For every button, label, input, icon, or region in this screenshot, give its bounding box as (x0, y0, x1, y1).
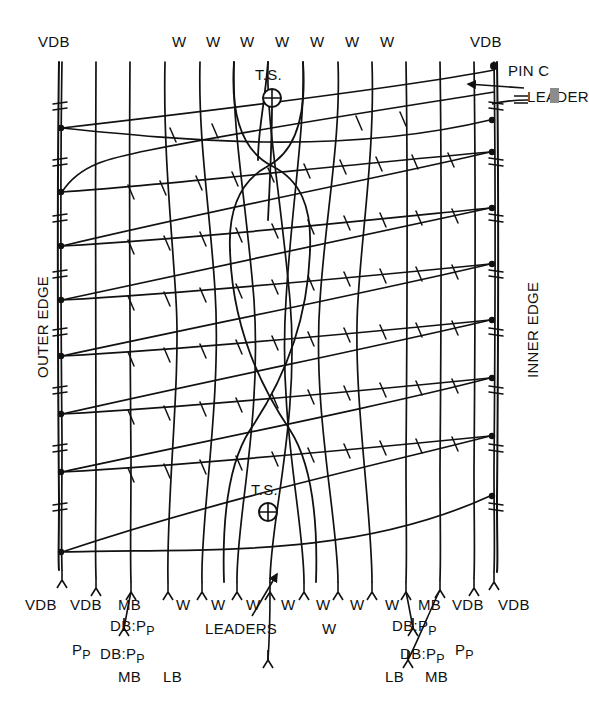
top-thread-label-w: W (310, 33, 324, 50)
bottom-thread-label-w: W (350, 596, 364, 613)
bottom-braid-label: LB (163, 668, 182, 685)
bottom-stitch-label: PP (72, 641, 91, 662)
left-edge-pin-ticks (53, 102, 67, 511)
top-thread-label-w: W (345, 33, 359, 50)
bottom-braid-label: MB (425, 668, 448, 685)
leaders-label: LEADERS (205, 620, 277, 637)
bottom-thread-label-w: W (246, 596, 260, 613)
bottom-stitch-label: PP (455, 641, 474, 662)
outer-edge-label: OUTER EDGE (34, 276, 51, 378)
ts-marker-top (263, 89, 281, 107)
bottom-braid-label: LB (385, 668, 404, 685)
passive-threads (61, 62, 495, 582)
bottom-thread-label-w: W (176, 596, 190, 613)
right-edge-pin-ticks (489, 102, 503, 511)
bottom-thread-label-vdb: VDB (452, 596, 484, 613)
bottom-thread-label-vdb: VDB (498, 596, 530, 613)
bottom-stitch-label: DB:PP (392, 617, 437, 638)
bottom-braid-label: MB (118, 668, 141, 685)
top-thread-label-w: W (275, 33, 289, 50)
bottom-thread-label-mb: MB (118, 596, 141, 613)
bottom-stitch-label: DB:PP (400, 645, 445, 666)
bottom-stitch-label: DB:PP (100, 645, 145, 666)
bottom-thread-label-mb: MB (418, 596, 441, 613)
bottom-stitch-label: W (322, 620, 336, 637)
bottom-thread-label-w: W (316, 596, 330, 613)
top-thread-label-w: W (380, 33, 394, 50)
top-thread-label-vdb: VDB (470, 33, 502, 50)
bottom-thread-label-vdb: VDB (70, 596, 102, 613)
inner-edge-label: INNER EDGE (524, 282, 541, 378)
ground-pin-marks (128, 112, 458, 482)
top-thread-label-w: W (172, 33, 186, 50)
bottom-thread-label-w: W (385, 596, 399, 613)
bottom-thread-label-w: W (281, 596, 295, 613)
ts-label-1: T.S. (255, 66, 282, 83)
pin-c-label: PIN C (508, 62, 550, 79)
top-thread-label-w: W (240, 33, 254, 50)
top-thread-label-w: W (206, 33, 220, 50)
pin-c-arrow (468, 84, 524, 88)
ts-label-2: T.S. (251, 481, 278, 498)
bottom-stitch-label: DB:PP (110, 617, 155, 638)
ts-marker-bottom (259, 503, 277, 521)
bottom-thread-label-vdb: VDB (25, 596, 57, 613)
right-edge-clip-bar (550, 88, 559, 103)
traveling-threads (62, 70, 494, 552)
bottom-thread-label-w: W (211, 596, 225, 613)
top-thread-label-vdb: VDB (38, 33, 70, 50)
